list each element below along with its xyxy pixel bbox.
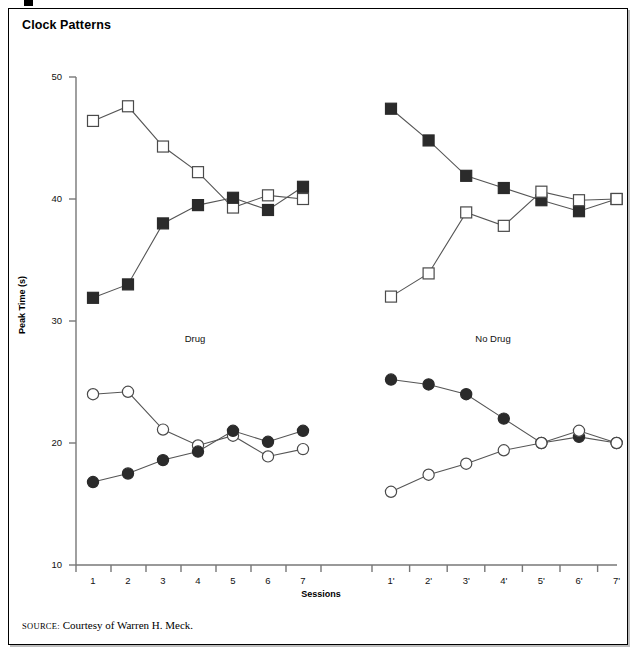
x-tick-label: 1 xyxy=(80,575,106,586)
x-tick-label: 7' xyxy=(604,575,630,586)
x-tick-label: 3 xyxy=(150,575,176,586)
series-filled-square-drug xyxy=(88,181,309,303)
marker-filled-circle xyxy=(122,468,133,479)
x-tick-label: 4' xyxy=(491,575,517,586)
marker-open-circle xyxy=(87,389,98,400)
marker-open-circle xyxy=(157,424,168,435)
y-tick-label: 10 xyxy=(40,559,62,570)
marker-open-square xyxy=(611,194,622,205)
x-tick-label: 3' xyxy=(453,575,479,586)
marker-open-circle xyxy=(498,445,509,456)
source-prefix: SOURCE: xyxy=(22,621,60,631)
marker-filled-circle xyxy=(385,374,396,385)
marker-open-square xyxy=(498,220,509,231)
y-tick-label: 40 xyxy=(40,193,62,204)
y-tick-label: 30 xyxy=(40,315,62,326)
marker-open-circle xyxy=(385,486,396,497)
marker-open-square xyxy=(574,195,585,206)
marker-open-square xyxy=(536,186,547,197)
marker-open-square xyxy=(423,268,434,279)
marker-filled-square xyxy=(574,206,585,217)
source-text: Courtesy of Warren H. Meck. xyxy=(63,619,193,631)
x-tick-label: 7 xyxy=(290,575,316,586)
marker-filled-square xyxy=(193,200,204,211)
marker-filled-square xyxy=(298,181,309,192)
panel-label-drug: Drug xyxy=(150,333,240,344)
marker-open-circle xyxy=(611,437,622,448)
marker-open-square xyxy=(88,115,99,126)
series-filled-circle-drug xyxy=(87,425,308,487)
marker-open-circle xyxy=(461,458,472,469)
marker-open-square xyxy=(386,291,397,302)
marker-open-circle xyxy=(262,451,273,462)
axes-group xyxy=(69,77,617,572)
marker-open-square xyxy=(193,167,204,178)
marker-filled-square xyxy=(423,135,434,146)
chart-canvas xyxy=(0,0,638,655)
x-axis-label: Sessions xyxy=(286,589,356,599)
marker-filled-circle xyxy=(227,425,238,436)
marker-open-circle xyxy=(573,425,584,436)
y-tick-label: 50 xyxy=(40,71,62,82)
x-tick-label: 1' xyxy=(378,575,404,586)
y-tick-label: 20 xyxy=(40,437,62,448)
series-open-square-drug xyxy=(88,101,309,213)
marker-filled-square xyxy=(158,218,169,229)
marker-filled-circle xyxy=(87,476,98,487)
x-tick-label: 2' xyxy=(416,575,442,586)
marker-filled-square xyxy=(386,103,397,114)
x-tick-label: 5 xyxy=(220,575,246,586)
x-tick-label: 6' xyxy=(566,575,592,586)
x-tick-label: 5' xyxy=(528,575,554,586)
marker-filled-square xyxy=(228,192,239,203)
marker-filled-square xyxy=(461,170,472,181)
series-open-square-nodrug xyxy=(386,186,623,302)
marker-open-square xyxy=(158,141,169,152)
marker-filled-circle xyxy=(157,454,168,465)
marker-filled-circle xyxy=(498,413,509,424)
x-tick-label: 4 xyxy=(185,575,211,586)
marker-open-square xyxy=(123,101,134,112)
marker-open-square xyxy=(263,190,274,201)
marker-open-circle xyxy=(122,386,133,397)
marker-filled-square xyxy=(263,204,274,215)
marker-filled-circle xyxy=(297,425,308,436)
marker-filled-square xyxy=(123,279,134,290)
marker-filled-circle xyxy=(192,446,203,457)
marker-open-square xyxy=(298,194,309,205)
x-tick-label: 6 xyxy=(255,575,281,586)
marker-open-circle xyxy=(423,469,434,480)
marker-filled-circle xyxy=(262,436,273,447)
marker-filled-circle xyxy=(423,379,434,390)
panel-label-no-drug: No Drug xyxy=(448,333,538,344)
series-filled-circle-nodrug xyxy=(385,374,622,449)
marker-filled-circle xyxy=(461,389,472,400)
series-open-circle-nodrug xyxy=(385,425,622,497)
x-tick-label: 2 xyxy=(115,575,141,586)
marker-filled-square xyxy=(88,292,99,303)
figure-page: Clock Patterns Peak Time (s) Sessions Dr… xyxy=(0,0,638,655)
marker-open-circle xyxy=(297,444,308,455)
marker-open-square xyxy=(461,207,472,218)
marker-open-circle xyxy=(536,437,547,448)
source-note: SOURCE: Courtesy of Warren H. Meck. xyxy=(22,619,193,631)
y-axis-label: Peak Time (s) xyxy=(17,265,27,345)
marker-filled-square xyxy=(498,183,509,194)
